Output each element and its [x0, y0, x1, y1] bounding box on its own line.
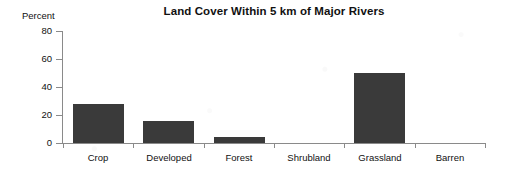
x-axis-tick: [204, 143, 205, 148]
x-axis-tick: [485, 143, 486, 148]
x-axis-tick: [415, 143, 416, 148]
plot-area: [63, 31, 485, 143]
x-axis-category-label: Developed: [146, 152, 191, 163]
chart-title: Land Cover Within 5 km of Major Rivers: [63, 5, 485, 17]
y-axis-tick: 20: [56, 115, 63, 116]
y-axis-tick: 60: [56, 59, 63, 60]
y-axis-tick-label: 20: [41, 109, 52, 120]
chart-screenshot: Land Cover Within 5 km of Major Rivers P…: [0, 0, 524, 173]
y-axis-tick-label: 40: [41, 81, 52, 92]
bar: [214, 137, 265, 143]
bar: [73, 104, 124, 143]
y-axis-tick-label: 60: [41, 53, 52, 64]
bar: [143, 121, 194, 143]
y-axis-tick: 80: [56, 31, 63, 32]
x-axis-category-label: Crop: [88, 152, 109, 163]
x-axis-category-label: Shrubland: [287, 152, 330, 163]
bar: [354, 73, 405, 143]
x-axis-category-label: Grassland: [358, 152, 401, 163]
x-axis-tick: [344, 143, 345, 148]
x-axis-category-label: Barren: [436, 152, 465, 163]
y-axis-tick-label: 80: [41, 25, 52, 36]
x-axis-tick: [63, 143, 64, 148]
x-axis-tick: [274, 143, 275, 148]
y-axis-tick: 0: [56, 143, 63, 144]
x-axis-tick: [133, 143, 134, 148]
y-axis-tick: 40: [56, 87, 63, 88]
y-axis-title: Percent: [22, 10, 55, 21]
x-axis-category-label: Forest: [226, 152, 253, 163]
y-axis-tick-label: 0: [47, 137, 52, 148]
